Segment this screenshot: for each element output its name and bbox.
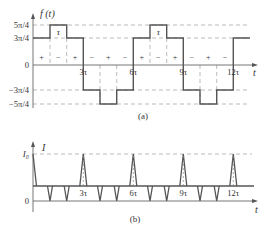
x-axis-label-b: t xyxy=(255,204,258,215)
initial-spike xyxy=(33,154,37,186)
plot-b: I I₀ 0 t 3τ 6τ 9τ 12τ (b) xyxy=(22,141,258,224)
figure: 5π/4 3π/4 0 −3π/4 −5π/4 f (t) t τ τ 3τ 6… xyxy=(0,0,266,225)
svg-text:−: − xyxy=(123,53,128,62)
ytick-i0: I₀ xyxy=(22,149,29,159)
svg-text:−: − xyxy=(156,53,161,62)
caption-b: (b) xyxy=(130,214,141,224)
plot-a: 5π/4 3π/4 0 −3π/4 −5π/4 f (t) t τ τ 3τ 6… xyxy=(9,8,258,121)
spike-center-dashes xyxy=(83,156,233,186)
svg-text:+: + xyxy=(39,53,44,62)
caption-a: (a) xyxy=(138,111,148,121)
ytick-neg-5pi4: −5π/4 xyxy=(9,99,30,109)
waveform-f xyxy=(33,25,250,104)
ytick-neg-3pi4: −3π/4 xyxy=(9,85,30,95)
svg-text:−: − xyxy=(89,53,94,62)
xtick-9tau-b: 9τ xyxy=(179,188,187,198)
y-axis-label-a: f (t) xyxy=(40,8,55,20)
ytick-3pi4: 3π/4 xyxy=(14,33,30,43)
svg-text:+: + xyxy=(139,53,144,62)
svg-text:+: + xyxy=(173,53,178,62)
xtick-9tau-a: 9τ xyxy=(179,67,187,77)
svg-text:−: − xyxy=(189,53,194,62)
svg-text:+: + xyxy=(73,53,78,62)
svg-text:+: + xyxy=(106,53,111,62)
xtick-12tau-a: 12τ xyxy=(227,67,240,77)
xtick-3tau-b: 3τ xyxy=(79,188,87,198)
y-axis-arrow-icon xyxy=(31,13,35,19)
axes-b xyxy=(33,144,254,212)
upward-spikes xyxy=(80,154,237,186)
x-axis-arrow-icon-b xyxy=(252,199,258,203)
tau-label-1: τ xyxy=(57,27,61,37)
svg-text:+: + xyxy=(206,53,211,62)
ytick-0-b: 0 xyxy=(25,196,29,206)
xtick-3tau-a: 3τ xyxy=(79,67,87,77)
tau-label-2: τ xyxy=(157,27,161,37)
reference-gridlines-a xyxy=(33,25,250,104)
svg-text:−: − xyxy=(223,53,228,62)
y-axis-arrow-icon-b xyxy=(31,141,35,147)
svg-text:−: − xyxy=(56,53,61,62)
y-axis-label-b: I xyxy=(41,142,46,153)
xtick-6tau-b: 6τ xyxy=(129,188,137,198)
xtick-12tau-b: 12τ xyxy=(227,188,240,198)
ytick-5pi4: 5π/4 xyxy=(14,20,30,30)
xtick-6tau-a: 6τ xyxy=(129,67,137,77)
ytick-0: 0 xyxy=(25,60,29,70)
x-axis-label-a: t xyxy=(253,67,256,78)
